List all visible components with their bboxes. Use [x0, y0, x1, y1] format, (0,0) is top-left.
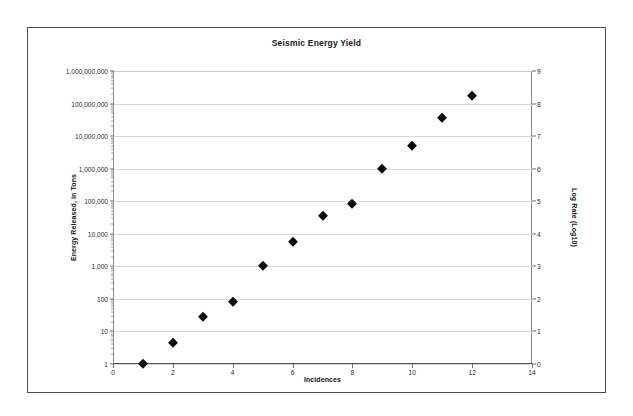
y-axis-right-line	[531, 71, 532, 364]
y-axis-left-minor-tick	[111, 143, 114, 144]
x-axis-tick-label: 2	[171, 369, 175, 376]
y-axis-left-minor-tick	[111, 88, 114, 89]
y-axis-left-minor-tick	[111, 267, 114, 268]
y-axis-left-minor-tick	[111, 214, 114, 215]
y-axis-left-minor-tick	[111, 218, 114, 219]
y-axis-left-minor-tick	[111, 283, 114, 284]
y-axis-left-minor-tick	[111, 83, 114, 84]
y-axis-title-left: Energy Released, in Tons	[68, 71, 80, 364]
gridline	[113, 364, 532, 365]
y-axis-left-minor-tick	[111, 191, 114, 192]
y-axis-left-minor-tick	[111, 315, 114, 316]
y-axis-left-minor-tick	[111, 208, 114, 209]
y-axis-left-tick	[110, 266, 114, 267]
y-axis-left-minor-tick	[111, 332, 114, 333]
y-axis-left-minor-tick	[111, 116, 114, 117]
gridline	[113, 104, 532, 105]
y-axis-left-minor-tick	[111, 204, 114, 205]
y-axis-left-minor-tick	[111, 211, 114, 212]
y-axis-left-minor-tick	[111, 171, 114, 172]
plot-top-border	[113, 71, 532, 72]
y-axis-left-minor-tick	[111, 271, 114, 272]
x-axis-tick-label: 4	[231, 369, 235, 376]
y-axis-left-minor-tick	[111, 93, 114, 94]
y-axis-left-minor-tick	[111, 181, 114, 182]
y-axis-left-minor-tick	[111, 279, 114, 280]
x-axis-tick-label: 0	[111, 369, 115, 376]
y-axis-left-minor-tick	[111, 341, 114, 342]
y-axis-right-tick-label: 8	[537, 100, 541, 107]
y-axis-left-minor-tick	[111, 241, 114, 242]
y-axis-right-tick	[532, 71, 536, 72]
data-point	[407, 141, 417, 151]
data-point	[257, 261, 267, 271]
y-axis-left-minor-tick	[111, 321, 114, 322]
y-axis-left-tick	[110, 136, 114, 137]
x-axis-tick	[412, 364, 413, 368]
y-axis-left-minor-tick	[111, 137, 114, 138]
y-axis-left-minor-tick	[111, 246, 114, 247]
y-axis-left-tick-label: 1,000	[91, 263, 108, 270]
y-axis-left-minor-tick	[111, 139, 114, 140]
y-axis-left-minor-tick	[111, 105, 114, 106]
y-axis-left-minor-tick	[111, 120, 114, 121]
x-axis-tick	[293, 364, 294, 368]
y-axis-left-minor-tick	[111, 344, 114, 345]
y-axis-left-minor-tick	[111, 76, 114, 77]
plot-area: 1101001,00010,000100,0001,000,00010,000,…	[113, 71, 532, 364]
data-point	[138, 359, 148, 369]
gridline	[113, 234, 532, 235]
y-axis-left-minor-tick	[111, 311, 114, 312]
y-axis-title-right: Log Rate (Log10)	[568, 71, 580, 364]
y-axis-left-minor-tick	[111, 273, 114, 274]
y-axis-right-tick	[532, 201, 536, 202]
y-axis-left-minor-tick	[111, 336, 114, 337]
x-axis-title: Incidences	[113, 376, 532, 383]
y-axis-left-tick-label: 100,000	[84, 198, 108, 205]
y-axis-left-minor-tick	[111, 113, 114, 114]
y-axis-left-tick	[110, 71, 114, 72]
data-point	[467, 91, 477, 101]
y-axis-left-minor-tick	[111, 173, 114, 174]
chart-title: Seismic Energy Yield	[28, 38, 605, 48]
y-axis-left-minor-tick	[111, 110, 114, 111]
y-axis-title-right-label: Log Rate (Log10)	[571, 188, 578, 247]
gridline	[113, 201, 532, 202]
y-axis-left-tick	[110, 233, 114, 234]
y-axis-right-tick-label: 0	[537, 361, 541, 368]
y-axis-left-minor-tick	[111, 158, 114, 159]
y-axis-left-tick	[110, 201, 114, 202]
y-axis-left-minor-tick	[111, 206, 114, 207]
chart-frame: Seismic Energy Yield Energy Released, in…	[27, 27, 606, 393]
x-axis-tick	[472, 364, 473, 368]
y-axis-title-left-label: Energy Released, in Tons	[71, 174, 78, 261]
x-axis-tick-label: 8	[351, 369, 355, 376]
y-axis-left-minor-tick	[111, 334, 114, 335]
y-axis-left-minor-tick	[111, 289, 114, 290]
y-axis-left-minor-tick	[111, 126, 114, 127]
y-axis-left-minor-tick	[111, 300, 114, 301]
x-axis-tick	[352, 364, 353, 368]
y-axis-right-tick	[532, 168, 536, 169]
y-axis-right-tick	[532, 298, 536, 299]
y-axis-left-tick-label: 1,000,000,000	[66, 68, 108, 75]
y-axis-right-tick-label: 6	[537, 165, 541, 172]
chart-screenshot: Seismic Energy Yield Energy Released, in…	[0, 0, 633, 416]
y-axis-left-tick-label: 1	[104, 361, 108, 368]
y-axis-left-minor-tick	[111, 238, 114, 239]
y-axis-left-minor-tick	[111, 276, 114, 277]
y-axis-left-minor-tick	[111, 348, 114, 349]
y-axis-left-tick	[110, 298, 114, 299]
y-axis-left-minor-tick	[111, 236, 114, 237]
y-axis-right-tick-label: 9	[537, 68, 541, 75]
data-point	[287, 237, 297, 247]
y-axis-left-minor-tick	[111, 250, 114, 251]
y-axis-right-tick	[532, 266, 536, 267]
data-point	[317, 211, 327, 221]
x-axis-tick-label: 14	[528, 369, 535, 376]
y-axis-left-minor-tick	[111, 141, 114, 142]
y-axis-left-minor-tick	[111, 74, 114, 75]
x-axis-tick	[233, 364, 234, 368]
y-axis-left-tick	[110, 168, 114, 169]
x-axis-tick-label: 6	[291, 369, 295, 376]
